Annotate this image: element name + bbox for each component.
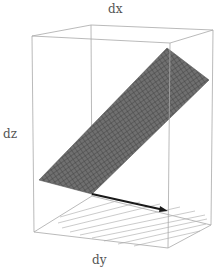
plot-canvas: [0, 0, 216, 272]
axis-label-dz: dz: [3, 127, 17, 141]
axis-label-dy: dy: [92, 253, 106, 267]
tangent-plane-surface: [39, 48, 209, 194]
axis-label-dx: dx: [108, 2, 122, 16]
direction-arrow: [92, 194, 168, 212]
